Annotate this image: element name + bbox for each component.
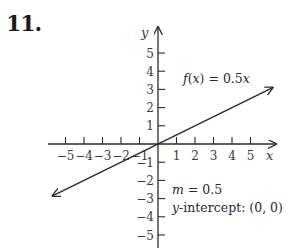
x-tick-label: 3 [210,149,218,163]
annotations: f(x) = 0.5xm = 0.5y-intercept: (0, 0) [171,71,283,215]
y-tick-label: 4 [146,65,154,79]
x-tick-label: −4 [75,149,93,163]
x-tick-label: −3 [94,149,112,163]
y-intercept-label: y-intercept: (0, 0) [171,200,283,215]
function-label: f(x) = 0.5x [182,71,250,86]
y-tick-label: −1 [136,156,154,170]
y-tick-label: 5 [146,47,154,61]
y-tick-label: −4 [136,210,154,224]
y-axis-label: y [140,25,149,40]
y-tick-label: −5 [136,229,154,243]
slope-label: m = 0.5 [172,182,222,197]
x-tick-label: 2 [191,149,199,163]
x-tick-label: 4 [228,149,236,163]
y-tick-label: 1 [146,119,154,133]
coordinate-plane: xy−5−4−3−2−112345−5−4−3−2−112345 f(x) = … [0,0,290,248]
y-tick-label: 3 [146,83,154,97]
x-tick-label: 1 [173,149,181,163]
y-tick-label: −3 [136,192,154,206]
x-axis-label: x [266,148,274,163]
x-tick-label: 5 [247,149,255,163]
y-tick-label: −2 [136,174,154,188]
function-line-path [53,88,273,196]
function-line [53,88,273,196]
x-tick-label: −5 [57,149,75,163]
x-tick-label: −2 [112,149,130,163]
y-tick-label: 2 [146,101,154,115]
